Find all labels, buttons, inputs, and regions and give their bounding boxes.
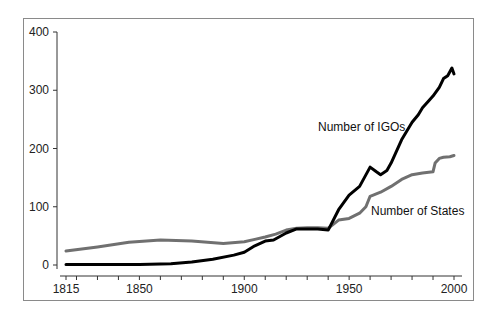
axes: 010020030040018151850190019502000 [29, 25, 468, 296]
x-tick-label: 2000 [441, 282, 468, 296]
igos-line [66, 68, 454, 264]
x-tick-label: 1900 [231, 282, 258, 296]
x-tick-label: 1850 [126, 282, 153, 296]
y-tick-label: 0 [42, 258, 49, 272]
x-tick-label: 1950 [336, 282, 363, 296]
series-labels: Number of IGOsNumber of States [318, 120, 464, 218]
y-tick-label: 200 [29, 142, 49, 156]
x-tick-label: 1815 [53, 282, 80, 296]
label-igos: Number of IGOs [318, 120, 405, 134]
series-lines [66, 68, 454, 264]
y-tick-label: 100 [29, 200, 49, 214]
y-tick-label: 300 [29, 83, 49, 97]
label-states: Number of States [371, 204, 464, 218]
y-tick-label: 400 [29, 25, 49, 39]
line-chart: 010020030040018151850190019502000 Number… [0, 0, 488, 314]
